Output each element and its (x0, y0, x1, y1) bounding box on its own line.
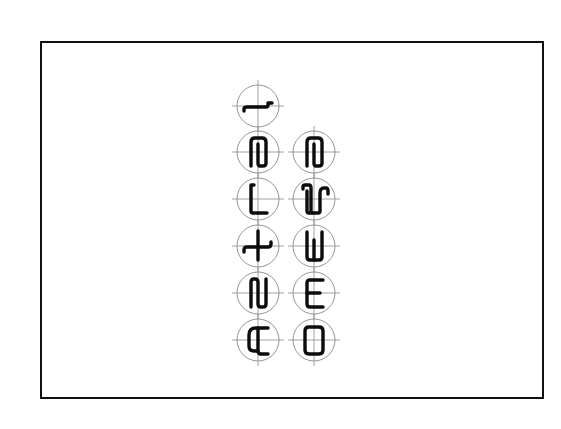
glyph-cell-A (230, 312, 286, 368)
letter-O-glyph-icon (286, 312, 342, 368)
typographic-artwork: Astral Omega (0, 0, 561, 429)
glyph-cell-O (286, 312, 342, 368)
letter-A-glyph-icon (230, 312, 286, 368)
